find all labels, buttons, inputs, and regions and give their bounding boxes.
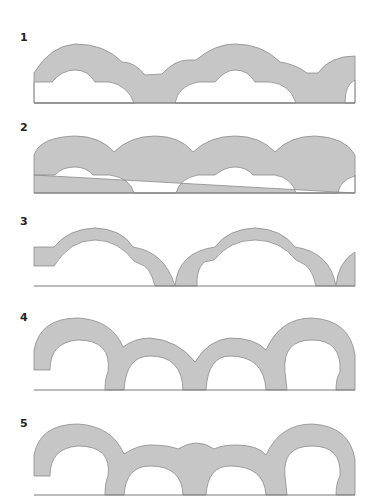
- arcade-shape-5: [34, 424, 355, 495]
- arcade-diagram-5: [0, 0, 376, 500]
